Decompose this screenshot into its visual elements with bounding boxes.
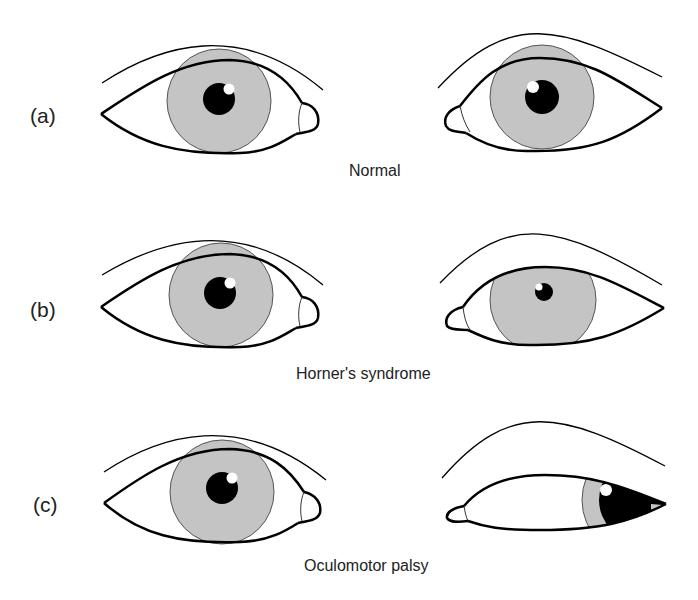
row-c-left-eye bbox=[104, 436, 326, 544]
row-c-right-eye-oculomotor bbox=[442, 422, 698, 558]
row-c-label: (c) bbox=[33, 493, 58, 517]
row-b-left-eye bbox=[101, 240, 323, 347]
row-a-label: (a) bbox=[30, 104, 56, 128]
row-a-right-eye bbox=[438, 34, 662, 151]
row-b-label: (b) bbox=[30, 298, 56, 322]
row-a-left-eye bbox=[101, 46, 323, 154]
row-c-caption: Oculomotor palsy bbox=[304, 557, 429, 575]
row-b-right-eye-horner bbox=[440, 234, 664, 353]
row-a-caption: Normal bbox=[349, 162, 401, 180]
row-b-caption: Horner's syndrome bbox=[296, 365, 431, 383]
eye-diagram bbox=[0, 0, 698, 600]
